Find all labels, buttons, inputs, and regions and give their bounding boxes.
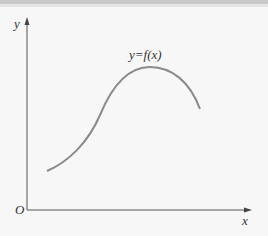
function-label: y=f(x) <box>129 48 162 61</box>
y-axis-arrow-icon <box>25 17 30 25</box>
function-curve <box>47 67 200 171</box>
function-graph <box>0 0 268 236</box>
origin-label: O <box>15 203 24 216</box>
x-axis-arrow-icon <box>244 208 252 213</box>
x-axis-label: x <box>242 214 248 227</box>
y-axis-label: y <box>14 17 20 30</box>
